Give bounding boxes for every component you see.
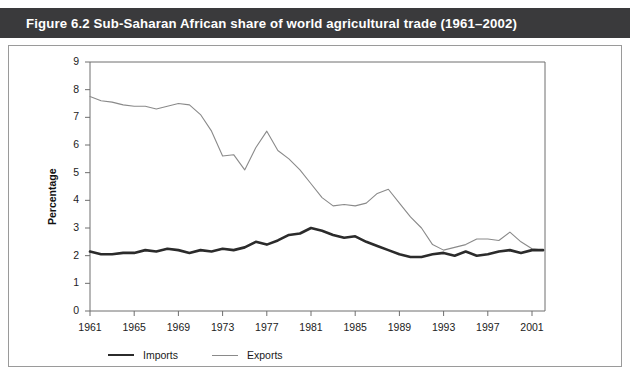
figure-container: Figure 6.2 Sub-Saharan African share of … [0, 0, 630, 375]
x-axis-tick-label: 1965 [114, 321, 154, 333]
y-axis-tick-label: 2 [57, 249, 79, 261]
y-axis-tick-label: 1 [57, 276, 79, 288]
y-axis-tick-label: 5 [57, 166, 79, 178]
figure-title-bar: Figure 6.2 Sub-Saharan African share of … [0, 8, 630, 38]
x-axis-tick-label: 1969 [158, 321, 198, 333]
y-axis-tick-label: 3 [57, 221, 79, 233]
x-axis-tick-label: 1985 [335, 321, 375, 333]
legend-label-imports: Imports [143, 349, 178, 361]
x-axis-tick-label: 1997 [468, 321, 508, 333]
imports-line-swatch [108, 354, 134, 356]
y-axis-title: Percentage [46, 168, 58, 225]
y-axis-tick-label: 7 [57, 110, 79, 122]
x-axis-tick-label: 1989 [379, 321, 419, 333]
legend-item-exports: Exports [212, 349, 283, 361]
y-axis-tick-label: 6 [57, 138, 79, 150]
figure-title: Figure 6.2 Sub-Saharan African share of … [26, 16, 517, 31]
chart-legend: Imports Exports [108, 349, 317, 361]
exports-line-swatch [212, 355, 238, 356]
legend-item-imports: Imports [108, 349, 178, 361]
y-axis-tick-label: 9 [57, 55, 79, 67]
x-axis-tick-label: 1973 [203, 321, 243, 333]
y-axis-tick-label: 0 [57, 304, 79, 316]
y-axis-tick-label: 8 [57, 83, 79, 95]
figure-panel [8, 45, 622, 367]
y-axis-tick-label: 4 [57, 193, 79, 205]
x-axis-tick-label: 1977 [247, 321, 287, 333]
x-axis-tick-label: 1961 [70, 321, 110, 333]
x-axis-tick-label: 2001 [512, 321, 552, 333]
x-axis-tick-label: 1981 [291, 321, 331, 333]
legend-label-exports: Exports [247, 349, 283, 361]
x-axis-tick-label: 1993 [424, 321, 464, 333]
